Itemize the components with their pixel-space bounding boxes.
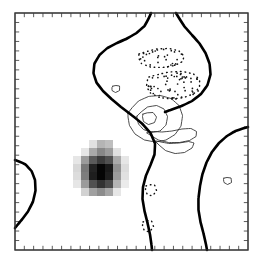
- stipple-dot: [173, 97, 175, 99]
- shading-cell: [113, 148, 121, 156]
- shading-cell: [73, 164, 81, 172]
- shading-cell: [89, 164, 97, 172]
- shading-cell: [89, 140, 97, 148]
- shading-cell: [73, 172, 81, 180]
- shading-cell: [105, 148, 113, 156]
- shading-cell: [81, 156, 89, 164]
- plot-canvas: [0, 0, 261, 265]
- stipple-dot: [174, 51, 176, 53]
- stipple-dot: [165, 75, 167, 77]
- inner-positive-loop-thin-contour: [143, 112, 157, 124]
- shading-cell: [113, 188, 121, 196]
- stipple-dot: [157, 49, 159, 51]
- shading-cell: [81, 188, 89, 196]
- stipple-dot: [174, 91, 176, 93]
- stipple-dot: [153, 86, 155, 88]
- stipple-dot: [167, 89, 169, 91]
- plot-frame: [15, 13, 248, 250]
- stipple-dot: [181, 53, 183, 55]
- stipple-dot: [154, 50, 156, 52]
- stipple-dot: [196, 78, 198, 80]
- stipple-dot: [157, 57, 159, 59]
- stipple-dot: [171, 74, 173, 76]
- shading-cell: [89, 148, 97, 156]
- stipple-dot: [182, 76, 184, 78]
- stipple-dot: [157, 77, 159, 79]
- stipple-dot: [152, 77, 154, 79]
- shading-cell: [121, 172, 129, 180]
- stipple-dot: [164, 56, 166, 58]
- stipple-dot: [172, 63, 174, 65]
- axis-ticks-left: [15, 22, 19, 240]
- shading-cell: [105, 140, 113, 148]
- shading-cell: [81, 180, 89, 188]
- mid-negative-patch-outline-dotted-contour: [146, 72, 199, 100]
- stipple-dot: [183, 87, 185, 89]
- stipple-dot: [166, 80, 168, 82]
- shading-cell: [89, 180, 97, 188]
- stipple-dot: [150, 86, 152, 88]
- negative-stipple-field: [140, 49, 199, 100]
- stipple-dot: [177, 94, 179, 96]
- shading-cell: [105, 172, 113, 180]
- stipple-dot: [167, 77, 169, 79]
- small-diamond-left-thin-contour: [112, 85, 120, 92]
- plot-frame-overlay: [15, 13, 248, 250]
- lower-right-tail-thin-contour: [155, 141, 194, 154]
- shading-cell: [105, 164, 113, 172]
- shading-cell: [97, 164, 105, 172]
- stipple-dot: [148, 85, 150, 87]
- shading-cell: [97, 188, 105, 196]
- stipple-dot: [192, 91, 194, 93]
- stipple-dot: [142, 56, 144, 58]
- significance-shading: [73, 140, 129, 196]
- stipple-dot: [186, 76, 188, 78]
- stipple-dot: [152, 51, 154, 53]
- stipple-dot: [175, 63, 177, 65]
- stipple-dot: [180, 74, 182, 76]
- shading-cell: [81, 164, 89, 172]
- stipple-dot: [140, 58, 142, 60]
- shading-cell: [73, 156, 81, 164]
- stipple-dot: [151, 88, 153, 90]
- shading-cell: [97, 172, 105, 180]
- shading-cell: [97, 140, 105, 148]
- shading-cell: [73, 180, 81, 188]
- shading-cell: [89, 172, 97, 180]
- stipple-dot: [158, 55, 160, 57]
- stipple-dot: [190, 78, 192, 80]
- stipple-dot: [157, 62, 159, 64]
- shading-cell: [81, 148, 89, 156]
- shading-cell: [97, 156, 105, 164]
- shading-cell: [105, 180, 113, 188]
- stipple-dot: [146, 54, 148, 56]
- stipple-dot: [163, 76, 165, 78]
- shading-cell: [89, 188, 97, 196]
- stipple-dot: [173, 76, 175, 78]
- stipple-dot: [176, 76, 178, 78]
- shading-cell: [105, 188, 113, 196]
- stipple-dot: [165, 84, 167, 86]
- thick-zero-contours: [15, 13, 248, 250]
- stipple-dot: [149, 64, 151, 66]
- stipple-dot: [183, 81, 185, 83]
- stipple-dot: [160, 91, 162, 93]
- stipple-dot: [163, 49, 165, 51]
- stipple-dot: [170, 50, 172, 52]
- stipple-dot: [175, 98, 177, 100]
- shading-cell: [81, 172, 89, 180]
- stipple-dot: [190, 81, 192, 83]
- stipple-dot: [197, 90, 199, 92]
- stipple-dot: [143, 53, 145, 55]
- stipple-dot: [180, 78, 182, 80]
- stipple-dot: [144, 60, 146, 62]
- stipple-dot: [150, 89, 152, 91]
- stipple-dot: [167, 54, 169, 56]
- stipple-dot: [177, 83, 179, 85]
- stipple-dot: [170, 64, 172, 66]
- upper-central-lobe-thick-contour: [94, 13, 156, 250]
- shading-cell: [121, 156, 129, 164]
- stipple-dot: [176, 72, 178, 74]
- small-loop-right-edge-thin-contour: [224, 177, 232, 184]
- shading-cell: [121, 164, 129, 172]
